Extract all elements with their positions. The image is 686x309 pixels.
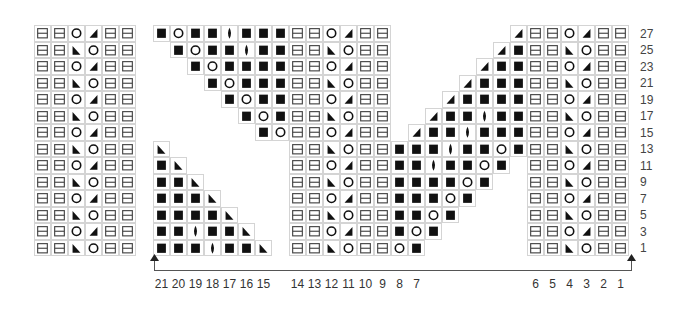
chart-cell	[68, 240, 85, 257]
chart-cell	[612, 141, 629, 158]
chart-cell	[255, 240, 272, 257]
chart-cell	[612, 91, 629, 108]
chart-cell	[102, 174, 119, 191]
chart-cell	[323, 141, 340, 158]
chart-cell	[272, 42, 289, 59]
chart-cell	[289, 42, 306, 59]
chart-cell	[323, 108, 340, 125]
chart-cell	[544, 58, 561, 75]
chart-cell	[255, 91, 272, 108]
column-number: 12	[323, 277, 340, 291]
chart-cell	[391, 174, 408, 191]
chart-cell	[527, 75, 544, 92]
chart-cell	[459, 91, 476, 108]
chart-cell	[357, 141, 374, 158]
chart-cell	[289, 91, 306, 108]
chart-cell	[442, 190, 459, 207]
chart-cell	[170, 157, 187, 174]
chart-cell	[374, 157, 391, 174]
chart-cell	[289, 207, 306, 224]
column-number: 17	[221, 277, 238, 291]
chart-cell	[85, 124, 102, 141]
chart-cell	[561, 25, 578, 42]
chart-cell	[119, 91, 136, 108]
row-number: 27	[640, 27, 653, 41]
chart-cell	[238, 108, 255, 125]
chart-cell	[544, 75, 561, 92]
chart-cell	[221, 223, 238, 240]
chart-cell	[119, 240, 136, 257]
chart-cell	[85, 58, 102, 75]
chart-cell	[255, 42, 272, 59]
chart-cell	[442, 108, 459, 125]
chart-cell	[340, 42, 357, 59]
chart-cell	[323, 174, 340, 191]
column-number: 20	[170, 277, 187, 291]
chart-cell	[357, 190, 374, 207]
chart-cell	[51, 190, 68, 207]
chart-cell	[374, 223, 391, 240]
chart-cell	[68, 91, 85, 108]
chart-cell	[459, 108, 476, 125]
chart-cell	[527, 25, 544, 42]
chart-cell	[595, 75, 612, 92]
column-number: 4	[561, 277, 578, 291]
chart-cell	[289, 157, 306, 174]
chart-cell	[578, 75, 595, 92]
row-number: 15	[640, 126, 653, 140]
chart-cell	[578, 42, 595, 59]
chart-cell	[578, 108, 595, 125]
chart-cell	[561, 240, 578, 257]
chart-cell	[374, 58, 391, 75]
chart-cell	[187, 223, 204, 240]
chart-cell	[323, 190, 340, 207]
chart-cell	[306, 91, 323, 108]
chart-cell	[204, 190, 221, 207]
chart-cell	[357, 223, 374, 240]
chart-cell	[527, 240, 544, 257]
chart-cell	[493, 42, 510, 59]
chart-cell	[425, 141, 442, 158]
chart-cell	[170, 25, 187, 42]
chart-cell	[306, 190, 323, 207]
chart-cell	[34, 108, 51, 125]
chart-cell	[510, 91, 527, 108]
chart-cell	[85, 190, 102, 207]
chart-cell	[68, 141, 85, 158]
chart-cell	[476, 124, 493, 141]
chart-cell	[238, 58, 255, 75]
chart-cell	[34, 174, 51, 191]
row-number: 9	[640, 175, 647, 189]
chart-cell	[51, 91, 68, 108]
chart-cell	[527, 157, 544, 174]
chart-cell	[306, 108, 323, 125]
chart-cell	[374, 190, 391, 207]
chart-cell	[595, 207, 612, 224]
chart-cell	[34, 42, 51, 59]
chart-cell	[595, 157, 612, 174]
chart-cell	[357, 174, 374, 191]
chart-cell	[51, 124, 68, 141]
column-number: 18	[204, 277, 221, 291]
chart-cell	[272, 91, 289, 108]
chart-cell	[119, 75, 136, 92]
chart-cell	[578, 124, 595, 141]
chart-cell	[578, 223, 595, 240]
chart-cell	[102, 157, 119, 174]
chart-cell	[289, 75, 306, 92]
chart-cell	[408, 207, 425, 224]
chart-cell	[85, 157, 102, 174]
chart-cell	[544, 190, 561, 207]
chart-cell	[34, 190, 51, 207]
chart-cell	[102, 25, 119, 42]
chart-cell	[357, 75, 374, 92]
chart-cell	[595, 240, 612, 257]
chart-cell	[221, 207, 238, 224]
chart-cell	[476, 108, 493, 125]
chart-cell	[187, 42, 204, 59]
chart-cell	[459, 75, 476, 92]
chart-cell	[527, 174, 544, 191]
chart-cell	[289, 58, 306, 75]
chart-cell	[374, 240, 391, 257]
chart-cell	[442, 141, 459, 158]
